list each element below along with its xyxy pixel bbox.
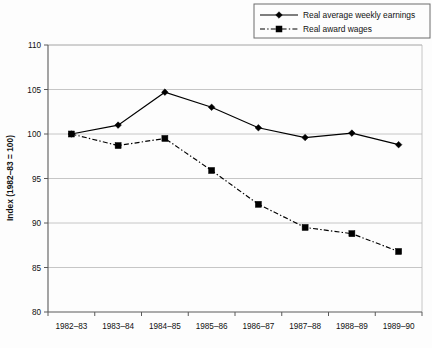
chart-legend: Real average weekly earningsReal award w… xyxy=(254,4,430,38)
legend-item-label: Real average weekly earnings xyxy=(303,10,415,20)
x-tick-label: 1982–83 xyxy=(55,322,87,331)
chart-container: 80859095100105110 1982–831983–841984–851… xyxy=(0,0,432,348)
x-tick-label: 1983–84 xyxy=(102,322,134,331)
x-tick-label: 1989–90 xyxy=(383,322,415,331)
y-tick-label: 85 xyxy=(32,264,42,273)
x-tick-label: 1986–87 xyxy=(242,322,274,331)
y-tick-label: 105 xyxy=(27,86,41,95)
line-chart: 80859095100105110 1982–831983–841984–851… xyxy=(0,0,432,348)
y-tick-label: 80 xyxy=(32,308,42,317)
data-point-marker xyxy=(255,201,261,207)
data-point-marker xyxy=(209,167,215,173)
y-tick-label: 100 xyxy=(27,130,41,139)
chart-background xyxy=(0,0,432,348)
data-point-marker xyxy=(68,131,74,137)
data-point-marker xyxy=(396,248,402,254)
data-point-marker xyxy=(349,231,355,237)
y-axis-title: Index (1982–83 = 100) xyxy=(5,135,15,221)
y-tick-label: 95 xyxy=(32,175,42,184)
data-point-marker xyxy=(162,135,168,141)
data-point-marker xyxy=(115,143,121,149)
y-tick-label: 110 xyxy=(28,41,41,50)
x-tick-label: 1984–85 xyxy=(149,322,181,331)
x-tick-label: 1987–88 xyxy=(289,322,321,331)
x-tick-label: 1985–86 xyxy=(196,322,228,331)
legend-item-label: Real award wages xyxy=(303,24,372,34)
data-point-marker xyxy=(302,224,308,230)
y-tick-label: 90 xyxy=(32,219,42,228)
x-tick-label: 1988–89 xyxy=(336,322,368,331)
legend-marker-square-icon xyxy=(276,26,282,32)
